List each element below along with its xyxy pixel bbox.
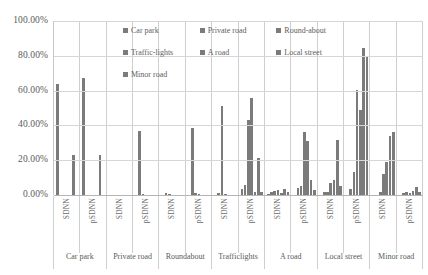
bar (244, 185, 247, 195)
bar (389, 136, 392, 195)
bar (333, 180, 336, 195)
bar-cluster (54, 21, 80, 195)
x-axis-tick-cell: pSDNN (133, 196, 159, 243)
x-axis-tick-label: pSDNN (353, 198, 361, 223)
x-axis-group-label: Car park (53, 243, 107, 269)
x-axis-tick-cell: pSDNN (186, 196, 212, 243)
bar (356, 90, 359, 195)
legend-item: Minor road (123, 70, 200, 79)
legend-label: A road (208, 48, 230, 57)
y-axis-tick: 20.00% (18, 155, 48, 165)
legend-swatch-icon (123, 50, 128, 55)
bar (221, 106, 224, 195)
x-axis-tick-cell: SDNN (370, 196, 396, 243)
bar-chart: 100.00%80.00%60.00%40.00%20.00%0.00% Car… (0, 0, 428, 275)
legend-item: Car park (123, 26, 200, 35)
bar (297, 188, 300, 195)
bar (415, 187, 418, 195)
x-axis-tick-cell: SDNN (212, 196, 238, 243)
bar (353, 172, 356, 195)
y-axis-tick: 0.00% (23, 190, 48, 200)
bar (138, 131, 141, 195)
legend-swatch-icon (200, 28, 205, 33)
x-axis-tick-label: SDNN (63, 198, 71, 219)
bar (329, 183, 332, 195)
x-axis-tick-cell: pSDNN (239, 196, 265, 243)
x-axis-tick-cell: SDNN (53, 196, 80, 243)
x-axis-group-label: Roundabout (159, 243, 212, 269)
x-axis-tick-label: pSDNN (406, 198, 414, 223)
bar (385, 162, 388, 195)
x-axis-labels: SDNNpSDNNSDNNpSDNNSDNNpSDNNSDNNpSDNNSDNN… (53, 196, 423, 243)
x-axis-tick-cell: SDNN (318, 196, 344, 243)
x-axis-group-label: Local street (318, 243, 371, 269)
bar (382, 174, 385, 195)
gridline (54, 125, 423, 126)
legend-swatch-icon (123, 72, 128, 77)
y-axis-tick: 80.00% (18, 51, 48, 61)
legend-item: A road (200, 48, 277, 57)
legend-swatch-icon (123, 28, 128, 33)
bar (82, 78, 85, 195)
legend-swatch-icon (276, 50, 281, 55)
legend-label: Round-about (284, 26, 326, 35)
x-axis-tick-label: SDNN (116, 198, 124, 219)
x-axis-tick-label: SDNN (327, 198, 335, 219)
bar (306, 141, 309, 195)
legend-swatch-icon (200, 50, 205, 55)
x-axis-tick-label: pSDNN (89, 198, 97, 223)
x-axis-group-labels: Car parkPrivate roadRoundaboutTrafficlig… (53, 243, 423, 269)
y-axis-tick: 40.00% (18, 120, 48, 130)
legend-item: Round-about (276, 26, 353, 35)
bar-category (370, 21, 396, 195)
x-axis-tick-cell: pSDNN (291, 196, 317, 243)
x-axis-group-label: Trafficlights (212, 243, 265, 269)
bar (362, 48, 365, 195)
x-axis-tick-label: SDNN (221, 198, 229, 219)
bar-cluster (397, 21, 423, 195)
gridline (54, 21, 423, 22)
x-axis-tick-cell: SDNN (107, 196, 133, 243)
bar (336, 140, 339, 195)
legend-label: Local street (284, 48, 322, 57)
legend-label: Private road (208, 26, 247, 35)
x-axis-tick-cell: SDNN (159, 196, 185, 243)
x-axis-tick-cell: pSDNN (397, 196, 423, 243)
chart-legend: Car parkPrivate roadRound-aboutTraffic-l… (123, 26, 353, 92)
x-axis-tick-cell: SDNN (265, 196, 291, 243)
bar (359, 110, 362, 195)
bar (392, 132, 395, 196)
bar-cluster (370, 21, 396, 195)
gridline (54, 160, 423, 161)
legend-swatch-icon (276, 28, 281, 33)
x-axis-tick-label: SDNN (379, 198, 387, 219)
bar-category (54, 21, 80, 195)
y-axis-tick: 60.00% (18, 86, 48, 96)
x-axis-tick-label: pSDNN (195, 198, 203, 223)
bar (247, 120, 250, 195)
bar (303, 132, 306, 195)
bar (191, 128, 194, 195)
legend-item: Private road (200, 26, 277, 35)
bar (300, 186, 303, 195)
x-axis-tick-label: SDNN (168, 198, 176, 219)
legend-label: Traffic-lights (131, 48, 173, 57)
x-axis-tick-label: pSDNN (142, 198, 150, 223)
bar (250, 98, 253, 195)
legend-item: Traffic-lights (123, 48, 200, 57)
x-axis-group-label: Private road (107, 243, 160, 269)
x-axis-group-label: A road (265, 243, 318, 269)
x-axis-tick-cell: pSDNN (344, 196, 370, 243)
x-axis-tick-label: pSDNN (247, 198, 255, 223)
x-axis-tick-cell: pSDNN (80, 196, 106, 243)
legend-label: Car park (131, 26, 159, 35)
y-axis-tick: 100.00% (13, 16, 48, 26)
bar (310, 180, 313, 195)
x-axis-tick-label: pSDNN (300, 198, 308, 223)
bar-category (397, 21, 423, 195)
bar-cluster (80, 21, 106, 195)
x-axis-tick-label: SDNN (274, 198, 282, 219)
y-axis: 100.00%80.00%60.00%40.00%20.00%0.00% (0, 0, 52, 196)
bar (56, 84, 59, 195)
legend-label: Minor road (131, 70, 167, 79)
